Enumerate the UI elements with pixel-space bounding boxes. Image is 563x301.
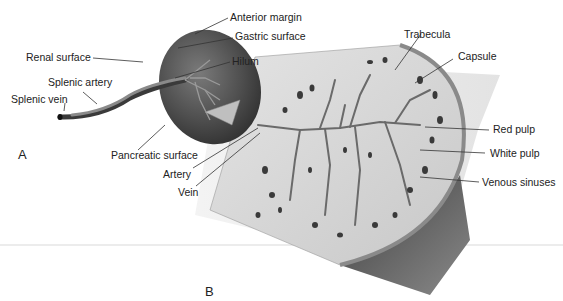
label-red-pulp: Red pulp bbox=[493, 123, 535, 135]
label-splenic-vein: Splenic vein bbox=[11, 93, 68, 105]
label-hilum: Hilum bbox=[232, 55, 259, 67]
panel-label-a: A bbox=[18, 147, 27, 162]
label-capsule: Capsule bbox=[458, 50, 497, 62]
label-trabecula: Trabecula bbox=[404, 28, 450, 40]
panel-label-b: B bbox=[205, 284, 214, 299]
label-artery: Artery bbox=[163, 168, 192, 180]
spleen-diagram: Anterior margin Gastric surface Renal su… bbox=[0, 0, 563, 301]
label-splenic-artery: Splenic artery bbox=[48, 76, 113, 88]
label-venous-sinuses: Venous sinuses bbox=[482, 176, 556, 188]
label-white-pulp: White pulp bbox=[490, 147, 540, 159]
label-vein: Vein bbox=[178, 186, 199, 198]
label-gastric-surface: Gastric surface bbox=[235, 30, 306, 42]
label-renal-surface: Renal surface bbox=[26, 51, 91, 63]
label-pancreatic-surface: Pancreatic surface bbox=[111, 149, 198, 161]
label-anterior-margin: Anterior margin bbox=[230, 11, 302, 23]
